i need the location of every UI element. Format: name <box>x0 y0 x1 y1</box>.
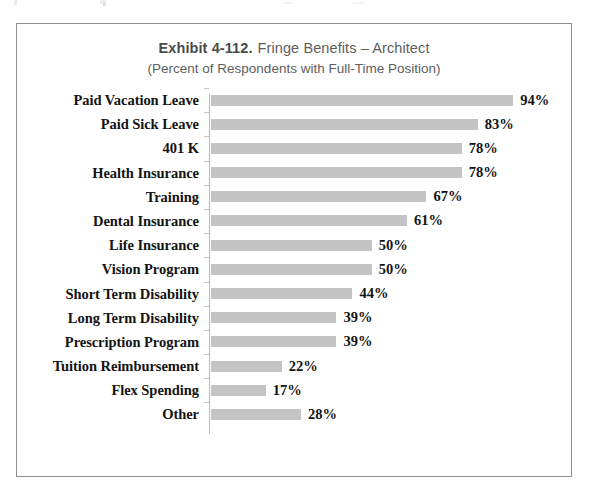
bar-track: 61% <box>211 215 443 226</box>
bar-value-label: 67% <box>426 191 462 202</box>
category-label: Other <box>162 402 199 426</box>
bar-row: Life Insurance50% <box>17 233 573 257</box>
bar-track: 83% <box>211 119 514 130</box>
bar-track: 50% <box>211 264 408 275</box>
bar-track: 78% <box>211 167 498 178</box>
bar-value-label: 78% <box>462 167 498 178</box>
bar-value-label: 44% <box>352 288 388 299</box>
bar-track: 78% <box>211 143 498 154</box>
bar-row: Training67% <box>17 185 573 209</box>
axis-tick <box>204 330 209 331</box>
bar-track: 22% <box>211 361 318 372</box>
bar <box>211 119 478 130</box>
axis-tick <box>204 378 209 379</box>
bar-value-label: 22% <box>282 361 318 372</box>
axis-tick <box>204 233 209 234</box>
axis-tick <box>204 161 209 162</box>
bar-row: Other28% <box>17 402 573 426</box>
chart-title-name: Fringe Benefits – Architect <box>258 40 430 56</box>
category-label: Tuition Reimbursement <box>53 354 199 378</box>
scan-artifact <box>283 2 293 4</box>
axis-tick <box>204 306 209 307</box>
category-label: Short Term Disability <box>66 282 200 306</box>
bar <box>211 409 301 420</box>
bar <box>211 191 426 202</box>
bar-row: Vision Program50% <box>17 257 573 281</box>
bar-row: 401 K78% <box>17 136 573 160</box>
category-label: Flex Spending <box>111 378 199 402</box>
category-label: 401 K <box>163 136 199 160</box>
bar <box>211 385 266 396</box>
bar <box>211 240 372 251</box>
bar <box>211 288 352 299</box>
bar-value-label: 78% <box>462 143 498 154</box>
bar-track: 28% <box>211 409 337 420</box>
category-label: Long Term Disability <box>68 306 199 330</box>
bar-track: 67% <box>211 191 462 202</box>
axis-tick <box>204 185 209 186</box>
scan-artifact <box>103 3 106 6</box>
axis-tick <box>204 88 209 89</box>
bar-value-label: 39% <box>336 336 372 347</box>
bar-row: Tuition Reimbursement22% <box>17 354 573 378</box>
category-label: Vision Program <box>102 257 199 281</box>
bar <box>211 336 336 347</box>
bar-row: Paid Vacation Leave94% <box>17 88 573 112</box>
scan-artifact <box>14 0 17 5</box>
chart-title: Exhibit 4-112.Fringe Benefits – Architec… <box>17 40 571 56</box>
category-label: Health Insurance <box>92 161 199 185</box>
bar-value-label: 28% <box>301 409 337 420</box>
bar-row: Long Term Disability39% <box>17 306 573 330</box>
bar-track: 39% <box>211 312 372 323</box>
bar-row: Prescription Program39% <box>17 330 573 354</box>
plot-area: Paid Vacation Leave94%Paid Sick Leave83%… <box>17 88 573 450</box>
axis-tick <box>204 136 209 137</box>
bar-value-label: 50% <box>372 264 408 275</box>
axis-tick <box>204 282 209 283</box>
bar <box>211 215 407 226</box>
chart-frame: Exhibit 4-112.Fringe Benefits – Architec… <box>16 23 572 477</box>
axis-tick <box>204 402 209 403</box>
category-label: Training <box>146 185 199 209</box>
bar-value-label: 61% <box>407 215 443 226</box>
axis-tick <box>204 257 209 258</box>
bar-value-label: 83% <box>478 119 514 130</box>
bar <box>211 264 372 275</box>
axis-tick <box>204 354 209 355</box>
bar-track: 39% <box>211 336 372 347</box>
category-label: Paid Sick Leave <box>101 112 199 136</box>
bar-track: 44% <box>211 288 388 299</box>
bar-value-label: 94% <box>513 95 549 106</box>
axis-tick <box>204 112 209 113</box>
bar-row: Flex Spending17% <box>17 378 573 402</box>
category-label: Paid Vacation Leave <box>73 88 199 112</box>
bar-track: 50% <box>211 240 408 251</box>
bar <box>211 167 462 178</box>
bar <box>211 312 336 323</box>
bar-row: Health Insurance78% <box>17 161 573 185</box>
category-label: Life Insurance <box>109 233 199 257</box>
bar <box>211 143 462 154</box>
bar-row: Paid Sick Leave83% <box>17 112 573 136</box>
category-label: Prescription Program <box>65 330 199 354</box>
scan-artifact <box>352 2 364 4</box>
chart-title-exhibit: Exhibit 4-112. <box>158 40 252 56</box>
category-label: Dental Insurance <box>93 209 199 233</box>
bar <box>211 95 513 106</box>
bar-value-label: 39% <box>336 312 372 323</box>
bar-track: 94% <box>211 95 549 106</box>
bar-row: Short Term Disability44% <box>17 282 573 306</box>
bar <box>211 361 282 372</box>
bar-row: Dental Insurance61% <box>17 209 573 233</box>
bar-track: 17% <box>211 385 302 396</box>
bar-value-label: 50% <box>372 240 408 251</box>
axis-tick <box>204 209 209 210</box>
bar-value-label: 17% <box>266 385 302 396</box>
chart-subtitle: (Percent of Respondents with Full-Time P… <box>17 61 571 76</box>
bar-row-list: Paid Vacation Leave94%Paid Sick Leave83%… <box>17 88 573 427</box>
